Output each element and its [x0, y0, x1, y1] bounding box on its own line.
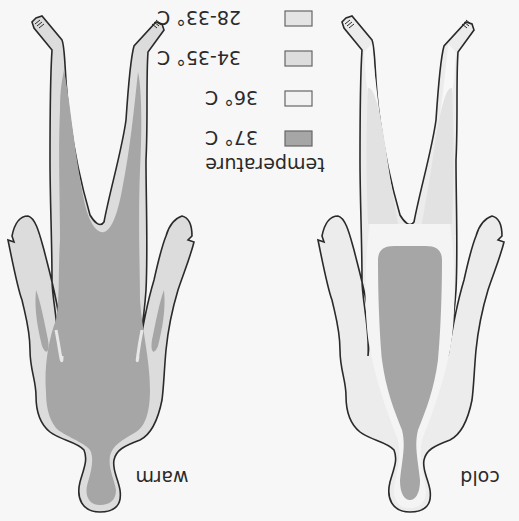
cold-core-37	[378, 246, 442, 500]
legend-title: temperature	[205, 154, 324, 176]
cold-band-28-33-left	[367, 88, 399, 224]
warm-figure	[8, 16, 194, 512]
legend-swatch-28-33	[285, 11, 312, 26]
legend: 28-33° C 34-35° C 36° C 37° C temperatur…	[157, 7, 325, 176]
legend-swatch-37	[285, 131, 312, 146]
legend-label-37: 37° C	[205, 127, 258, 149]
legend-label-28-33: 28-33° C	[157, 7, 241, 29]
warm-toes-icon	[35, 20, 161, 28]
legend-label-34-35: 34-35° C	[157, 47, 241, 69]
legend-swatch-36	[285, 91, 312, 106]
cold-label: cold	[460, 467, 499, 489]
cold-figure	[318, 16, 504, 512]
legend-swatch-34-35	[285, 51, 312, 66]
body-temperature-diagram: 28-33° C 34-35° C 36° C 37° C temperatur…	[0, 0, 519, 521]
legend-label-36: 36° C	[205, 87, 258, 109]
cold-toes-icon	[345, 20, 471, 28]
warm-label: warm	[135, 467, 188, 489]
diagram-canvas: 28-33° C 34-35° C 36° C 37° C temperatur…	[0, 0, 519, 521]
